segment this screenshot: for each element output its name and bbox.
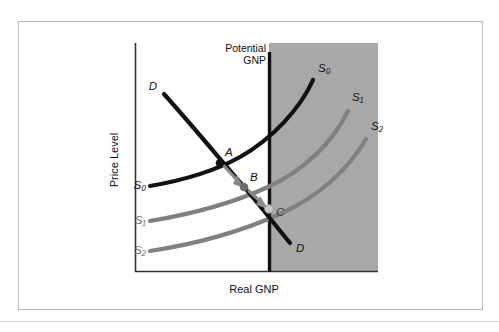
x-axis-label: Real GNP [229, 283, 279, 295]
curve-label-s0-right: S₀ [318, 62, 331, 74]
potential-gnp-label-line2: GNP [243, 54, 266, 66]
point-c-dot [265, 205, 274, 214]
curve-label-d-top: D [149, 80, 157, 92]
curve-label-d-bottom: D [296, 242, 304, 254]
curve-label-s2-left: S₂ [134, 244, 147, 256]
curve-label-s1-right: S₁ [352, 91, 364, 103]
point-a-dot [216, 159, 225, 168]
chart-canvas: Price Level Real GNP Potential GNP D D S… [0, 0, 499, 332]
point-b-label: B [250, 171, 258, 183]
point-c-label: C [276, 206, 285, 218]
figure-root: Price Level Real GNP Potential GNP D D S… [0, 0, 499, 332]
curve-label-s0-left: S₀ [133, 179, 146, 191]
curve-label-s2-right: S₂ [371, 120, 384, 132]
point-b-dot [240, 183, 249, 192]
point-a-label: A [224, 146, 233, 158]
y-axis-label: Price Level [108, 133, 120, 187]
potential-gnp-label-line1: Potential [225, 42, 266, 54]
curve-label-s1-left: S₁ [135, 214, 147, 226]
